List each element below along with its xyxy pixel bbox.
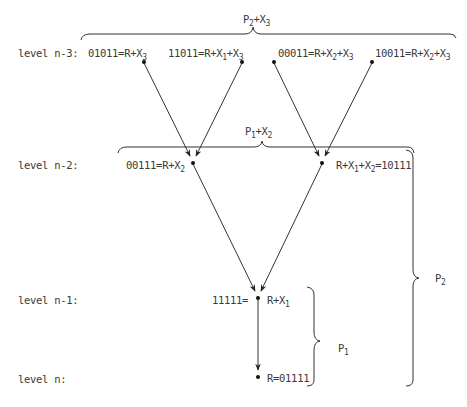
- node-10111-dot: [320, 161, 324, 165]
- node-label-11111-code: 11111=: [212, 295, 248, 306]
- level-label-n-2: level n-2:: [18, 160, 78, 171]
- edge-10011-10111: [325, 63, 372, 156]
- brace-label-top: P2+X3: [243, 14, 270, 25]
- node-label-10111: R+X1+X2=10111: [336, 160, 411, 171]
- node-label-10011: 10011=R+X2+X3: [375, 48, 450, 59]
- brace-top: [81, 27, 456, 40]
- node-01111-dot: [256, 375, 260, 379]
- brace-p2: [406, 150, 419, 386]
- level-label-n: level n:: [18, 374, 66, 385]
- node-label-11011: 11011=R+X1+X3: [168, 48, 243, 59]
- edge-00011-10111: [274, 63, 319, 156]
- node-00111-dot: [191, 161, 195, 165]
- node-label-01011: 01011=R+X3: [88, 48, 147, 59]
- edge-10111-11111: [261, 164, 322, 291]
- edge-00111-11111: [193, 164, 255, 291]
- node-11111-dot: [256, 296, 260, 300]
- node-label-00111: 00111=R+X2: [126, 160, 185, 171]
- node-label-01111: R=01111: [267, 373, 309, 384]
- node-00011-dot: [272, 60, 276, 64]
- edge-11011-00111: [196, 63, 242, 156]
- level-label-n-3: level n-3:: [18, 48, 78, 59]
- brace-label-p1: P1: [338, 343, 349, 354]
- node-label-11111-expr: R+X1: [267, 295, 290, 306]
- brace-middle: [118, 141, 414, 153]
- level-label-n-1: level n-1:: [18, 295, 78, 306]
- diagram-canvas: [0, 0, 467, 407]
- edge-01011-00111: [144, 63, 190, 156]
- brace-label-p2: P2: [435, 273, 446, 284]
- brace-label-middle: P1+X2: [245, 126, 272, 137]
- node-label-00011: 00011=R+X2+X3: [278, 48, 353, 59]
- node-10011-dot: [370, 60, 374, 64]
